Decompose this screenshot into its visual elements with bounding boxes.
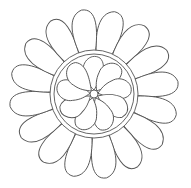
- center-dot: [90, 90, 98, 98]
- flower-line-art: [0, 0, 191, 188]
